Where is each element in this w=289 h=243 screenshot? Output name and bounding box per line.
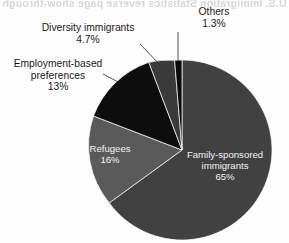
label-diversity-immigrants: Diversity immigrants 4.7% — [26, 22, 150, 45]
label-family-sponsored-name-line1: Family-sponsored — [172, 149, 278, 160]
pie-chart-figure: U.S. Immigration Statistics reverse page… — [0, 0, 289, 243]
label-others-percent: 1.3% — [186, 18, 242, 30]
label-diversity-immigrants-name: Diversity immigrants — [26, 22, 150, 34]
label-refugees-percent: 16% — [80, 154, 140, 165]
label-employment-based-preferences: Employment-based preferences 13% — [2, 58, 114, 93]
label-family-sponsored-immigrants: Family-sponsored immigrants 65% — [172, 149, 278, 183]
label-others: Others 1.3% — [186, 6, 242, 29]
label-refugees-name: Refugees — [80, 143, 140, 154]
label-refugees: Refugees 16% — [80, 143, 140, 165]
label-employment-based-name-line2: preferences — [2, 70, 114, 82]
label-employment-based-percent: 13% — [2, 81, 114, 93]
label-diversity-immigrants-percent: 4.7% — [26, 34, 150, 46]
label-family-sponsored-percent: 65% — [172, 171, 278, 182]
label-employment-based-name-line1: Employment-based — [2, 58, 114, 70]
label-others-name: Others — [186, 6, 242, 18]
label-family-sponsored-name-line2: immigrants — [172, 160, 278, 171]
